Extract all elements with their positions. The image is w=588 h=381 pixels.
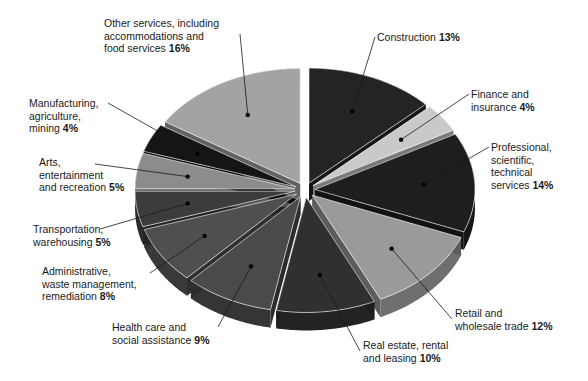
leader-dot-construction	[350, 109, 354, 113]
label-professional: Professional, scientific, technical serv…	[491, 141, 553, 191]
label-construction: Construction 13%	[377, 31, 460, 44]
label-finance: Finance and insurance 4%	[471, 88, 535, 113]
label-admin: Administrative, waste management, remedi…	[42, 265, 137, 303]
leader-dot-admin	[202, 234, 206, 238]
leader-dot-professional	[421, 182, 425, 186]
leader-dot-realestate	[318, 273, 322, 277]
label-realestate: Real estate, rental and leasing 10%	[363, 339, 448, 364]
label-retail: Retail and wholesale trade 12%	[455, 307, 552, 332]
leader-dot-transport	[185, 201, 189, 205]
label-manufacturing: Manufacturing, agriculture, mining 4%	[29, 97, 98, 135]
leader-dot-other	[246, 113, 250, 117]
leader-dot-arts	[185, 174, 189, 178]
leader-dot-finance	[399, 137, 403, 141]
label-arts: Arts, entertainment and recreation 5%	[39, 156, 124, 194]
leader-dot-retail	[389, 246, 393, 250]
leader-dot-health	[249, 264, 253, 268]
leader-dot-manufacturing	[195, 151, 199, 155]
label-health: Health care and social assistance 9%	[112, 321, 209, 346]
label-transport: Transportation, warehousing 5%	[33, 223, 111, 248]
label-other: Other services, including accommodations…	[104, 17, 219, 55]
